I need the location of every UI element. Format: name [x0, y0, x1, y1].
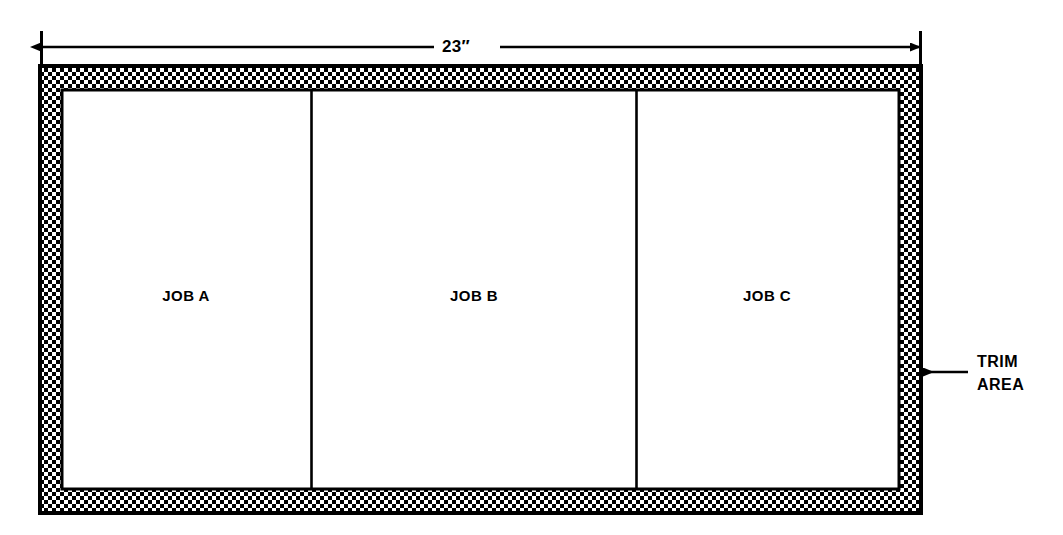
width-dimension [41, 31, 921, 64]
diagram-vector-layer [0, 0, 1063, 535]
width-dimension-label: 23″ [442, 38, 470, 55]
panel-label-job-a: JOB A [111, 288, 261, 303]
trim-area-callout-line2: AREA [977, 374, 1024, 395]
panel-label-job-c: JOB C [692, 288, 842, 303]
trim-area-callout-line1: TRIM [977, 351, 1018, 372]
panel-label-job-b: JOB B [399, 288, 549, 303]
press-sheet-diagram: 23″ JOB A JOB B JOB C TRIM AREA [0, 0, 1063, 535]
